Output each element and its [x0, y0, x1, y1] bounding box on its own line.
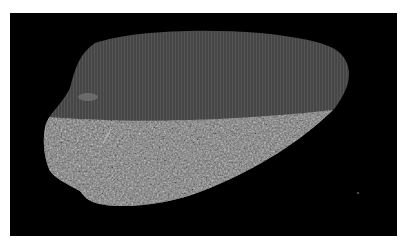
- micrograph-panel: [10, 13, 397, 236]
- speck: [357, 192, 359, 194]
- ridge-highlight: [78, 93, 98, 101]
- fragment: [10, 13, 397, 236]
- fragment-graphic: [10, 13, 397, 236]
